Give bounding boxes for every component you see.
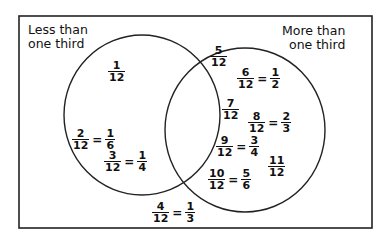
right-label-line2: one third xyxy=(282,38,345,52)
fraction-7-12: 712 xyxy=(222,98,239,121)
fraction-2-12: 212 = 16 xyxy=(72,128,115,151)
fraction-9-12: 912 = 34 xyxy=(216,135,259,158)
fraction-3-12: 312 = 14 xyxy=(104,150,147,173)
fraction-8-12: 812 = 23 xyxy=(248,111,291,134)
fraction-4-12: 412 = 13 xyxy=(152,201,195,224)
left-set-label: Less than one third xyxy=(28,23,88,51)
fraction-10-12: 1012 = 56 xyxy=(208,168,251,191)
right-set-label: More than one third xyxy=(282,24,345,52)
fraction-11-12: 1112 xyxy=(268,155,285,178)
fraction-6-12: 612 = 12 xyxy=(237,67,280,90)
fraction-1-12: 112 xyxy=(108,60,125,83)
left-label-line2: one third xyxy=(28,37,88,51)
left-label-line1: Less than xyxy=(28,23,88,37)
right-label-line1: More than xyxy=(282,24,345,38)
fraction-5-12: 512 xyxy=(210,45,227,68)
